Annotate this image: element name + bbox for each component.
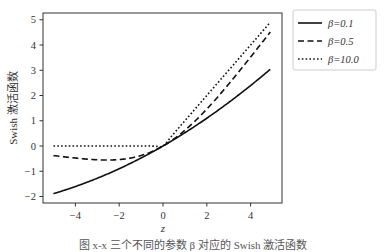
y-axis: −2−1012345 <box>25 14 43 202</box>
y-tick-label: 1 <box>31 115 36 126</box>
x-axis: −4−2024 <box>70 203 254 221</box>
x-tick-label: −2 <box>114 210 125 221</box>
x-tick-label: 0 <box>160 210 165 221</box>
y-tick-label: 4 <box>31 40 37 51</box>
x-tick-label: 4 <box>248 210 254 221</box>
plot-frame <box>43 13 282 203</box>
legend-label-1: β=0.1 <box>327 18 353 29</box>
legend-label-3: β=10.0 <box>327 54 359 65</box>
y-tick-label: 0 <box>31 141 36 152</box>
y-axis-title: Swish 激活函数 <box>6 71 19 145</box>
y-tick-label: 3 <box>31 65 36 76</box>
figure-caption: 图 x-x 三个不同的参数 β 对应的 Swish 激活函数 <box>0 236 386 252</box>
y-tick-label: 5 <box>31 14 36 25</box>
legend: β=0.1β=0.5β=10.0 <box>293 10 376 70</box>
x-tick-label: −4 <box>70 210 82 221</box>
x-axis-title: z <box>160 222 166 234</box>
plot-lines <box>54 22 271 193</box>
legend-label-2: β=0.5 <box>327 36 353 47</box>
x-tick-label: 2 <box>204 210 209 221</box>
series-line-3 <box>54 22 271 146</box>
y-tick-label: −1 <box>25 166 36 177</box>
y-tick-label: −2 <box>25 191 36 202</box>
series-line-1 <box>54 69 271 193</box>
y-tick-label: 2 <box>31 90 36 101</box>
